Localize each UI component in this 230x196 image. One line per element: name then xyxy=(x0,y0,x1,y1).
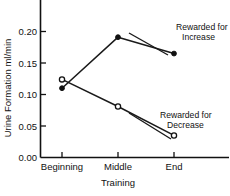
annotation-decrease-line2: Decrease xyxy=(167,120,204,130)
data-point-middle xyxy=(116,35,121,40)
y-tick-label-1: 0.05 xyxy=(19,121,38,132)
x-axis-title: Training xyxy=(101,177,135,188)
leader-line-increase xyxy=(129,33,168,55)
y-tick-label-4: 0.20 xyxy=(19,26,38,37)
data-point-end xyxy=(172,51,177,56)
x-tick-label-beginning: Beginning xyxy=(41,161,83,172)
data-point-middle xyxy=(115,104,120,109)
y-tick-label-2: 0.10 xyxy=(19,89,38,100)
series-line-increase xyxy=(62,37,174,88)
y-tick-label-0: 0.00 xyxy=(19,152,38,163)
y-tick-label-3: 0.15 xyxy=(19,58,38,69)
data-point-end xyxy=(171,133,176,138)
line-chart-svg: 0.20 0.15 0.10 0.05 0.00 Urine Formation… xyxy=(0,0,230,196)
x-tick-label-end: End xyxy=(166,161,183,172)
data-point-beginning xyxy=(59,77,64,82)
annotation-increase-line1: Rewarded for xyxy=(176,22,228,32)
data-point-beginning xyxy=(60,86,65,91)
y-axis-title: Urine Formation ml/min xyxy=(2,39,13,138)
series-markers-increase xyxy=(60,35,177,91)
annotation-increase-line2: Increase xyxy=(182,32,215,42)
x-tick-label-middle: Middle xyxy=(104,161,132,172)
annotation-decrease-line1: Rewarded for xyxy=(160,110,212,120)
